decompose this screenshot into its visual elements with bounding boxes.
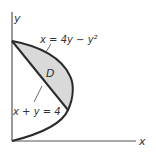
line-leader [34,86,42,102]
diagram: y x x = 4y − y² x + y = 4 D [0,0,156,154]
parabola-equation-label: x = 4y − y² [39,34,98,45]
y-axis-label: y [13,12,21,25]
region-label: D [46,67,54,80]
line-equation-label: x + y = 4 [12,106,61,117]
x-axis-label: x [138,135,146,148]
parabola-leader [46,44,51,52]
